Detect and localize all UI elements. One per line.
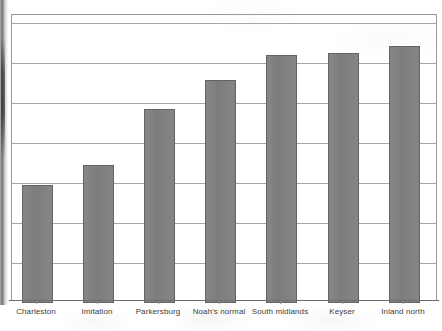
x-axis-tick-5 <box>280 301 281 304</box>
x-axis-tick-7 <box>403 301 404 304</box>
x-axis-line <box>9 300 439 301</box>
chart-screenshot: CharlestonImitationParkersburgNoah's nor… <box>0 0 442 331</box>
x-axis-label-6: Keyser <box>329 307 355 317</box>
x-axis-label-1: Charleston <box>16 307 56 317</box>
bar-6 <box>328 53 359 303</box>
x-axis-tick-3 <box>158 301 159 304</box>
x-axis-tick-6 <box>342 301 343 304</box>
chart-plot-area <box>11 14 437 301</box>
bar-3 <box>144 109 175 303</box>
x-axis-label-5: South midlands <box>252 307 309 317</box>
bar-fill-shading <box>84 166 113 302</box>
bar-fill-shading <box>390 47 419 302</box>
bar-5 <box>266 55 297 303</box>
bar-fill-shading <box>206 81 235 302</box>
x-axis-label-3: Parkersburg <box>136 307 181 317</box>
scan-edge-artifact <box>0 0 9 305</box>
x-axis-tick-4 <box>219 301 220 304</box>
x-axis-label-2: Imitation <box>81 307 112 317</box>
bar-4 <box>205 80 236 303</box>
bar-1 <box>22 185 53 303</box>
gridline-0 <box>12 23 436 24</box>
bar-2 <box>83 165 114 303</box>
x-axis-tick-2 <box>97 301 98 304</box>
bar-fill-shading <box>23 186 52 302</box>
x-axis-label-4: Noah's normal <box>193 307 246 317</box>
bar-7 <box>389 46 420 303</box>
bar-fill-shading <box>267 56 296 302</box>
bar-fill-shading <box>145 110 174 302</box>
x-axis-label-7: Inland north <box>381 307 424 317</box>
x-axis-tick-1 <box>36 301 37 304</box>
gridline-1 <box>12 63 436 64</box>
bar-fill-shading <box>329 54 358 302</box>
